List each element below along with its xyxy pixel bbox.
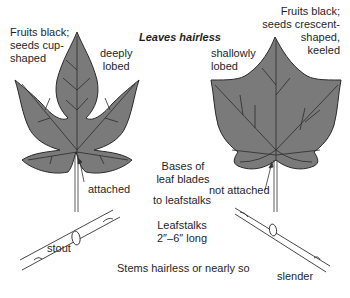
left-stem-label: stout bbox=[47, 242, 71, 255]
stems-note: Stems hairless or nearly so bbox=[117, 262, 250, 275]
left-lobing-note: deeply lobed bbox=[100, 47, 132, 73]
left-attachment-label: attached bbox=[88, 183, 130, 196]
to-leafstalks-note: to leafstalks bbox=[143, 194, 221, 207]
stout-stem bbox=[20, 210, 120, 270]
right-stem-label: slender bbox=[277, 270, 313, 283]
left-fruit-note: Fruits black; seeds cup- shaped bbox=[10, 26, 69, 65]
bases-note: Bases of leaf blades bbox=[150, 160, 216, 186]
leafstalk-length-note: Leafstalks 2″–6″ long bbox=[150, 219, 214, 245]
right-fruit-note: Fruits black; seeds crescent- shaped, ke… bbox=[262, 5, 340, 57]
right-lobing-note: shallowly lobed bbox=[211, 47, 256, 73]
title: Leaves hairless bbox=[139, 31, 221, 44]
